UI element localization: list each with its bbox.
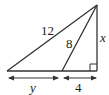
label-inner-segment: 8 xyxy=(66,36,73,51)
label-hypotenuse: 12 xyxy=(41,23,54,38)
label-height: x xyxy=(99,30,106,45)
right-angle-marker xyxy=(90,64,97,71)
arrow-right-icon xyxy=(91,76,97,81)
arrow-right-icon xyxy=(53,76,59,81)
label-base-right: 4 xyxy=(75,80,82,95)
label-base-left: y xyxy=(28,80,36,95)
arrow-left-icon xyxy=(63,76,69,81)
hypotenuse-line xyxy=(7,5,97,71)
triangle-diagram: 12 8 x y 4 xyxy=(0,0,109,95)
arrow-left-icon xyxy=(8,76,14,81)
